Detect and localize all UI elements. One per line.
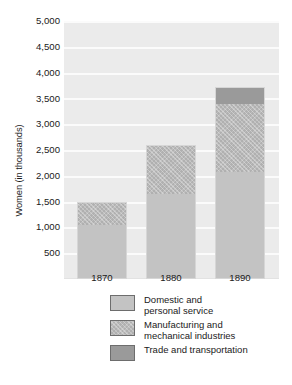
x-tick-label-1880: 1880 — [136, 272, 206, 283]
y-tick-label-3000: 3,000 — [16, 119, 60, 129]
y-tick-label-2000: 2,000 — [16, 171, 60, 181]
gridline-4000 — [64, 73, 279, 75]
legend-item-domestic: Domestic and personal service — [110, 295, 285, 316]
y-tick-label-2500: 2,500 — [16, 145, 60, 155]
legend-swatch-trade-icon — [110, 345, 135, 361]
y-tick-label-3500: 3,500 — [16, 94, 60, 104]
bar-1880-segment-domestic — [146, 194, 196, 279]
y-tick-label-1000: 1,000 — [16, 222, 60, 232]
legend-swatch-domestic-icon — [110, 295, 135, 311]
legend-item-manufacturing: Manufacturing and mechanical industries — [110, 320, 285, 341]
gridline-4500 — [64, 47, 279, 49]
y-tick-label-4000: 4,000 — [16, 68, 60, 78]
y-tick-label-500: 500 — [16, 248, 60, 258]
chart-legend: Domestic and personal service Manufactur… — [110, 295, 285, 365]
bar-1890-segment-domestic — [215, 172, 265, 279]
legend-label-domestic: Domestic and personal service — [144, 295, 213, 316]
y-tick-label-5000: 5,000 — [16, 16, 60, 26]
bar-1870-segment-domestic — [77, 225, 127, 279]
legend-item-trade: Trade and transportation — [110, 345, 285, 361]
stacked-bar-chart: Women (in thousands) 5,000 4,500 4,000 3… — [0, 0, 292, 385]
bar-1870-segment-manufacturing — [77, 202, 127, 225]
y-tick-label-1500: 1,500 — [16, 197, 60, 207]
plot-area — [64, 21, 279, 279]
x-tick-label-1890: 1890 — [205, 272, 275, 283]
legend-label-manufacturing: Manufacturing and mechanical industries — [144, 320, 235, 341]
bar-1880 — [146, 145, 196, 279]
bar-1890-segment-manufacturing — [215, 104, 265, 173]
legend-swatch-manufacturing-icon — [110, 320, 135, 336]
bar-1890 — [215, 87, 265, 279]
bar-1870 — [77, 202, 127, 279]
y-tick-label-4500: 4,500 — [16, 42, 60, 52]
legend-label-trade: Trade and transportation — [144, 345, 248, 356]
bar-1890-segment-trade — [215, 87, 265, 104]
x-tick-label-1870: 1870 — [67, 272, 137, 283]
bar-1880-segment-manufacturing — [146, 145, 196, 194]
gridline-5000 — [64, 21, 279, 23]
